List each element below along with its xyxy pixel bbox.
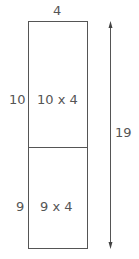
top-side-label: 10: [9, 93, 26, 106]
width-label: 4: [53, 4, 61, 17]
arrow-down-icon: [109, 242, 113, 249]
total-height-label: 19: [115, 126, 132, 139]
arrow-up-icon: [109, 21, 113, 28]
bottom-area-label: 9 x 4: [40, 200, 73, 213]
top-area-label: 10 x 4: [37, 93, 78, 106]
bottom-side-label: 9: [16, 200, 24, 213]
outer-rectangle: [29, 22, 88, 249]
